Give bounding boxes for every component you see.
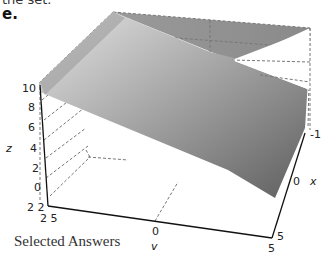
x-tick-5: 5 [277, 230, 284, 243]
selected-answers-heading: Selected Answers [14, 233, 120, 250]
z-tick-6: 6 [28, 121, 35, 134]
z-axis-ticks: 10 8 6 4 2 0 [22, 82, 41, 194]
v-tick-0: 0 [152, 225, 159, 238]
z-tick-4: 4 [30, 142, 37, 155]
x-tick-0: 0 [293, 175, 300, 188]
x-axis-label: x [309, 175, 317, 188]
z-tick-0: 0 [34, 181, 41, 194]
v-axis-label: v [151, 240, 158, 253]
z-tick-10: 10 [22, 82, 36, 95]
z-axis-label: z [5, 142, 12, 155]
3d-surface-plot: 10 8 6 4 2 0 z 2 2 2 5 0 v 5 -1 0 x 5 [0, 0, 324, 255]
x-tick-neg: -1 [310, 128, 321, 141]
z-tick-8: 8 [28, 101, 35, 114]
v-tick-5: 5 [268, 242, 275, 255]
z-tick-2: 2 [32, 162, 39, 175]
v-left-tick: 2 5 [40, 212, 58, 225]
